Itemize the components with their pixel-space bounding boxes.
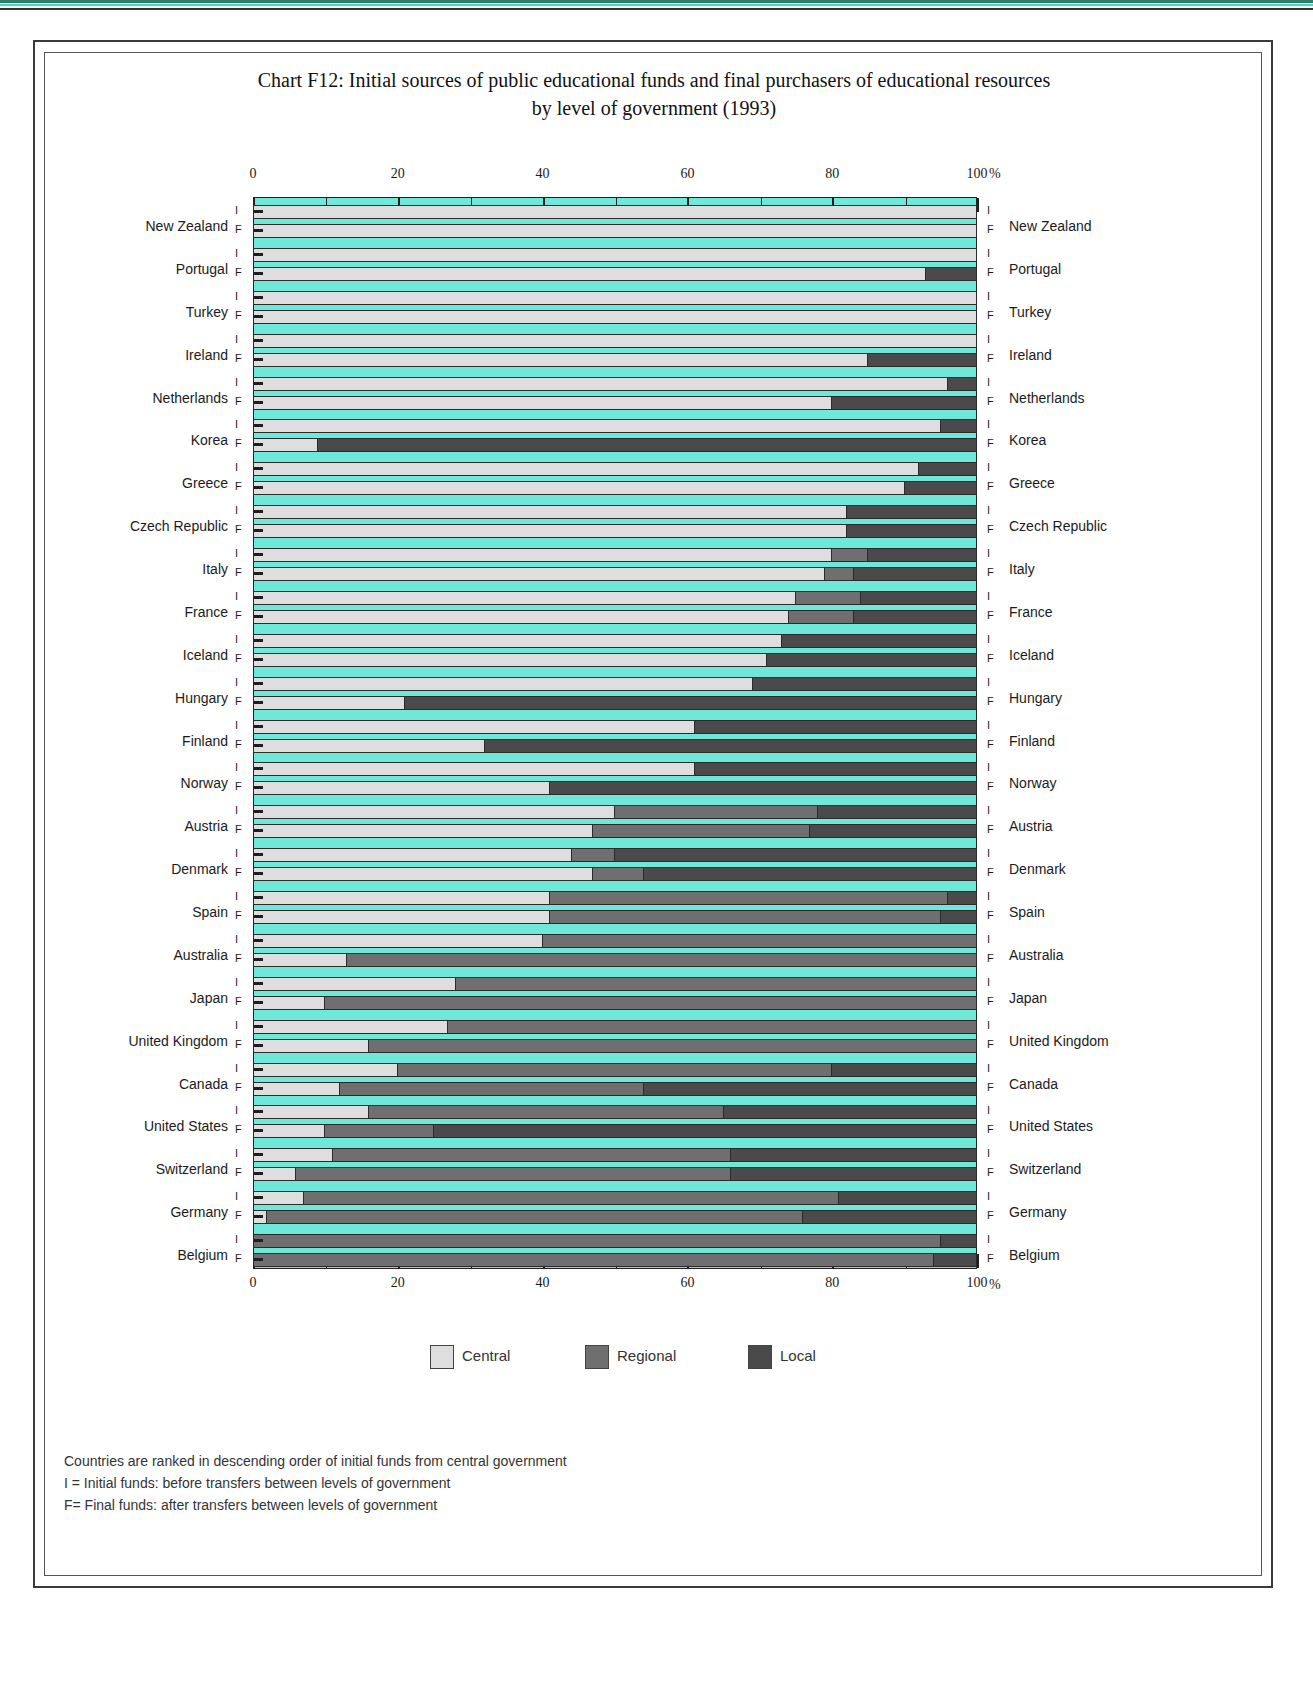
bar-segment-central xyxy=(253,867,593,881)
bar-segment-central xyxy=(253,848,572,862)
bar-row xyxy=(253,1124,977,1138)
bar-segment-local xyxy=(434,1124,977,1138)
row-marker-final-left: F xyxy=(235,437,242,449)
row-marker-initial-left: I xyxy=(235,247,238,259)
row-marker-final-right: F xyxy=(987,823,994,835)
row-marker-initial-right: I xyxy=(987,633,990,645)
bar-segment-central xyxy=(253,953,347,967)
row-marker-final-right: F xyxy=(987,1123,994,1135)
row-stub-left xyxy=(254,272,263,275)
bar-row xyxy=(253,377,977,391)
row-marker-initial-left: I xyxy=(235,376,238,388)
country-label-left: Australia xyxy=(13,947,228,963)
bar-segment-regional xyxy=(593,867,644,881)
row-stub-left xyxy=(254,1044,263,1047)
row-marker-initial-left: I xyxy=(235,461,238,473)
row-stub-left xyxy=(254,682,263,685)
bar-row xyxy=(253,1082,977,1096)
bar-segment-local xyxy=(644,867,977,881)
bar-segment-local xyxy=(615,848,977,862)
bar-row xyxy=(253,1167,977,1181)
axis-bottom-tick-0: 0 xyxy=(250,1275,257,1291)
row-marker-initial-right: I xyxy=(987,461,990,473)
bar-row xyxy=(253,1148,977,1162)
row-stub-left xyxy=(254,872,263,875)
row-stub-left xyxy=(254,382,263,385)
bar-segment-local xyxy=(847,505,977,519)
row-marker-final-right: F xyxy=(987,909,994,921)
row-marker-initial-right: I xyxy=(987,1147,990,1159)
bar-row xyxy=(253,696,977,710)
country-label-right: Spain xyxy=(1009,904,1045,920)
country-label-right: Greece xyxy=(1009,475,1055,491)
bar-segment-central xyxy=(253,524,847,538)
row-stub-left xyxy=(254,658,263,661)
bar-segment-regional xyxy=(825,567,854,581)
bar-segment-central xyxy=(253,419,941,433)
bar-segment-local xyxy=(847,524,977,538)
bar-row xyxy=(253,634,977,648)
bar-segment-local xyxy=(767,653,977,667)
bar-segment-local xyxy=(318,438,977,452)
row-marker-final-left: F xyxy=(235,609,242,621)
chart-title-line-2: by level of government (1993) xyxy=(64,94,1244,122)
country-label-left: Ireland xyxy=(13,347,228,363)
bar-segment-central xyxy=(253,1020,448,1034)
bar-segment-central xyxy=(253,567,825,581)
country-label-right: Hungary xyxy=(1009,690,1062,706)
bar-row xyxy=(253,591,977,605)
row-marker-initial-left: I xyxy=(235,1062,238,1074)
bar-segment-central xyxy=(253,396,832,410)
bar-segment-central xyxy=(253,891,550,905)
bar-segment-central xyxy=(253,910,550,924)
bar-segment-local xyxy=(753,677,977,691)
row-marker-final-right: F xyxy=(987,866,994,878)
bar-segment-central xyxy=(253,634,782,648)
row-marker-initial-right: I xyxy=(987,290,990,302)
row-stub-left xyxy=(254,443,263,446)
row-marker-final-right: F xyxy=(987,437,994,449)
bar-row xyxy=(253,824,977,838)
bar-row xyxy=(253,762,977,776)
row-stub-left xyxy=(254,296,263,299)
bar-segment-central xyxy=(253,505,847,519)
row-stub-left xyxy=(254,829,263,832)
row-marker-initial-left: I xyxy=(235,804,238,816)
axis-top-tick-20: 20 xyxy=(391,166,405,182)
row-marker-initial-left: I xyxy=(235,933,238,945)
bar-segment-regional xyxy=(325,996,977,1010)
bar-segment-regional xyxy=(796,591,861,605)
row-marker-initial-right: I xyxy=(987,590,990,602)
row-stub-left xyxy=(254,915,263,918)
row-marker-initial-right: I xyxy=(987,890,990,902)
axis-bottom-tick-100: 100 xyxy=(967,1275,988,1291)
bar-row xyxy=(253,248,977,262)
row-stub-left xyxy=(254,939,263,942)
axis-major-tick-top xyxy=(977,198,979,212)
row-stub-left xyxy=(254,358,263,361)
row-stub-left xyxy=(254,896,263,899)
row-marker-final-left: F xyxy=(235,1123,242,1135)
row-marker-final-left: F xyxy=(235,695,242,707)
country-label-right: Switzerland xyxy=(1009,1161,1081,1177)
row-marker-final-right: F xyxy=(987,1209,994,1221)
row-marker-initial-right: I xyxy=(987,804,990,816)
bar-row xyxy=(253,267,977,281)
row-marker-final-left: F xyxy=(235,223,242,235)
bar-segment-local xyxy=(839,1191,977,1205)
bar-segment-local xyxy=(854,610,977,624)
row-stub-left xyxy=(254,1153,263,1156)
bar-segment-local xyxy=(731,1167,977,1181)
bar-segment-regional xyxy=(448,1020,977,1034)
bar-segment-central xyxy=(253,248,977,262)
row-marker-initial-left: I xyxy=(235,1233,238,1245)
row-stub-left xyxy=(254,744,263,747)
row-stub-left xyxy=(254,958,263,961)
bar-row xyxy=(253,781,977,795)
row-marker-initial-right: I xyxy=(987,204,990,216)
row-marker-initial-right: I xyxy=(987,761,990,773)
bar-segment-regional xyxy=(253,1253,934,1267)
bar-row xyxy=(253,977,977,991)
bar-segment-local xyxy=(948,377,977,391)
row-marker-initial-left: I xyxy=(235,1104,238,1116)
